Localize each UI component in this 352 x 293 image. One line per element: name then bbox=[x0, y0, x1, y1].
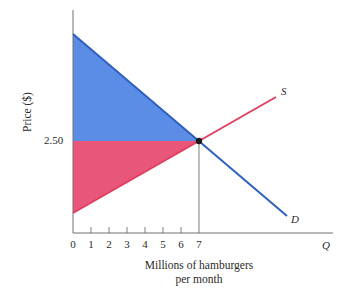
y-axis-label: Price ($) bbox=[22, 92, 34, 132]
x-tick-label: 3 bbox=[124, 239, 130, 250]
x-axis-title-line-1: Millions of hamburgers bbox=[145, 258, 253, 272]
supply-label: S bbox=[281, 86, 287, 97]
x-tick-label: 0 bbox=[70, 239, 76, 250]
supply-demand-chart bbox=[0, 0, 352, 293]
q-axis-label: Q bbox=[322, 240, 330, 251]
x-tick-label: 5 bbox=[160, 239, 166, 250]
x-tick-label: 1 bbox=[88, 239, 94, 250]
x-tick-label: 6 bbox=[178, 239, 184, 250]
x-axis-title: Millions of hamburgers per month bbox=[145, 258, 253, 286]
equilibrium-point bbox=[196, 138, 202, 144]
x-axis-title-line-2: per month bbox=[145, 272, 253, 286]
x-tick-label: 2 bbox=[106, 239, 112, 250]
x-tick-label: 7 bbox=[196, 239, 202, 250]
price-tick-label: 2.50 bbox=[44, 135, 63, 146]
demand-label: D bbox=[291, 214, 299, 225]
x-ticks bbox=[91, 227, 181, 233]
x-tick-label: 4 bbox=[142, 239, 148, 250]
